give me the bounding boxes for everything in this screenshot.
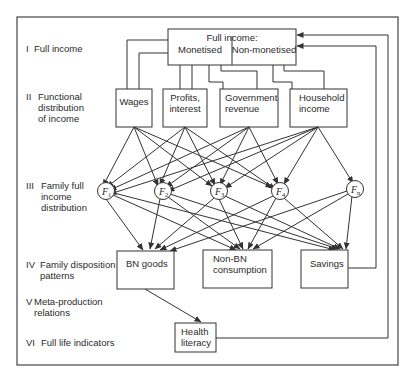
- family-circle-f3: F3: [211, 183, 228, 200]
- box-label: Government: [225, 92, 278, 103]
- level-label: income: [41, 191, 72, 202]
- bn-to-health-arrow: [145, 289, 201, 322]
- full-income-title: Full income:: [206, 32, 257, 43]
- level-label: Meta-production: [34, 296, 103, 307]
- level-label: distribution: [41, 202, 87, 213]
- level-label: Family full: [41, 180, 84, 191]
- family-circle-f1: F1: [98, 183, 115, 200]
- family-circle-f4: F4: [272, 183, 289, 200]
- level-label: of income: [38, 113, 79, 124]
- functional-to-family-arrows: [103, 127, 353, 194]
- box-label: interest: [169, 103, 201, 114]
- disposition-box-savings: Savings: [301, 250, 348, 288]
- level-label: Full life indicators: [41, 337, 115, 348]
- box-label: Household: [299, 92, 344, 103]
- box-label: literacy: [181, 337, 211, 348]
- outer-frame: [17, 17, 398, 365]
- box-label: Savings: [310, 258, 344, 269]
- level-numeral: VI: [26, 337, 35, 348]
- full-income-box: Full income: Monetised Non-monetised: [168, 29, 296, 65]
- level-label: relations: [34, 307, 70, 318]
- functional-box-government: Government revenue: [220, 89, 278, 127]
- box-label: Wages: [119, 96, 148, 107]
- level-label: patterns: [40, 270, 75, 281]
- indicator-box-health-literacy: Health literacy: [175, 323, 216, 352]
- box-label: income: [299, 103, 330, 114]
- family-circle-fn: Fn: [347, 181, 364, 198]
- box-label: Non-BN: [213, 253, 247, 264]
- level-numeral: IV: [26, 259, 36, 270]
- functional-box-household: Household income: [290, 89, 347, 127]
- box-label: consumption: [213, 264, 267, 275]
- full-income-flow-diagram: I Full income II Functional distribution…: [0, 0, 409, 381]
- box-label: revenue: [225, 103, 259, 114]
- family-to-disposition-arrows: [106, 191, 352, 251]
- monetised-label: Monetised: [178, 44, 222, 55]
- disposition-box-non-bn: Non-BN consumption: [203, 250, 272, 288]
- level-numeral: II: [26, 91, 31, 102]
- box-label: BN goods: [126, 258, 168, 269]
- level-numeral: V: [26, 296, 33, 307]
- level-numeral: III: [26, 180, 34, 191]
- level-label: Full income: [34, 43, 83, 54]
- family-circle-f2: F2: [155, 183, 172, 200]
- level-numeral: I: [26, 43, 29, 54]
- level-label: Functional: [38, 91, 82, 102]
- level-label: distribution: [38, 102, 84, 113]
- non-monetised-label: Non-monetised: [232, 44, 296, 55]
- disposition-box-bn-goods: BN goods: [117, 251, 174, 289]
- box-label: Profits,: [170, 92, 200, 103]
- functional-box-profits: Profits, interest: [163, 89, 207, 127]
- functional-box-wages: Wages: [116, 89, 152, 127]
- level-label: Family disposition: [40, 259, 116, 270]
- box-label: Health: [181, 326, 208, 337]
